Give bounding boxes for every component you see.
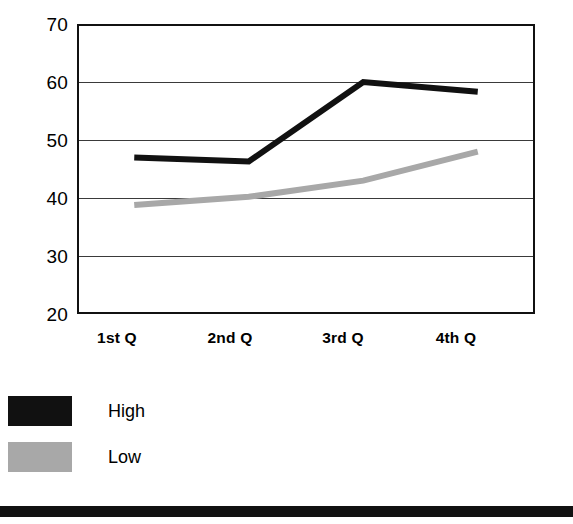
x-axis-tick-1st-q: 1st Q xyxy=(62,330,172,346)
x-axis-tick-3rd-q: 3rd Q xyxy=(288,330,398,346)
series-line-high xyxy=(134,82,478,161)
legend-item-high: High xyxy=(8,388,268,434)
y-axis-tick-50: 50 xyxy=(20,131,68,150)
x-axis-tick-2nd-q: 2nd Q xyxy=(175,330,285,346)
legend-swatch-high-icon xyxy=(8,396,72,426)
legend-label-low: Low xyxy=(108,448,141,466)
series-layer xyxy=(77,24,535,314)
chart-legend: High Low xyxy=(8,388,268,480)
line-chart-figure: 70 60 50 40 30 20 1st Q 2nd Q 3rd Q 4th … xyxy=(0,0,573,524)
legend-item-low: Low xyxy=(8,434,268,480)
x-axis-tick-4th-q: 4th Q xyxy=(401,330,511,346)
y-axis-tick-60: 60 xyxy=(20,73,68,92)
legend-label-high: High xyxy=(108,402,145,420)
y-axis-tick-30: 30 xyxy=(20,247,68,266)
y-axis-tick-20: 20 xyxy=(20,305,68,324)
legend-swatch-low-icon xyxy=(8,442,72,472)
y-axis-tick-40: 40 xyxy=(20,189,68,208)
bottom-divider xyxy=(0,506,573,517)
y-axis-tick-70: 70 xyxy=(20,15,68,34)
